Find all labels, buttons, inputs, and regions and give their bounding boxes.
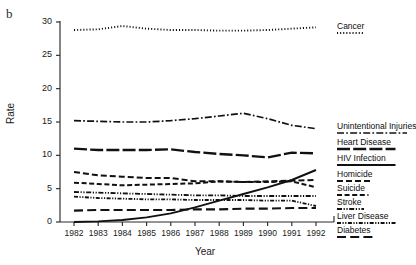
legend-label-heart-disease: Heart Disease	[337, 137, 391, 147]
legend-label-cancer: Cancer	[337, 21, 364, 31]
y-axis-label: Rate	[5, 91, 16, 137]
series-line-liver-disease	[74, 197, 316, 206]
x-tick-1992: 1992	[301, 228, 331, 238]
y-tick-0: 0	[30, 216, 52, 226]
axes	[56, 21, 334, 226]
series-line-heart-disease	[74, 149, 316, 158]
legend-label-diabetes: Diabetes	[337, 225, 371, 235]
legend-label-suicide: Suicide	[337, 183, 365, 193]
panel-label: b	[6, 6, 13, 22]
y-tick-10: 10	[30, 149, 52, 159]
x-axis-label: Year	[60, 246, 350, 257]
series-lines	[74, 26, 316, 222]
y-tick-20: 20	[30, 83, 52, 93]
y-tick-15: 15	[30, 116, 52, 126]
legend-label-hiv-infection: HIV Infection	[337, 153, 386, 163]
y-tick-30: 30	[30, 16, 52, 26]
series-line-stroke	[74, 192, 316, 196]
legend-label-liver-disease: Liver Disease	[337, 211, 389, 221]
legend-label-unintentional-injuries: Unintentional Injuries	[337, 121, 416, 131]
legend-label-stroke: Stroke	[337, 197, 362, 207]
series-line-unintentional-injuries	[74, 113, 316, 128]
series-line-cancer	[74, 26, 316, 31]
y-tick-5: 5	[30, 183, 52, 193]
legend-label-homicide: Homicide	[337, 169, 372, 179]
y-tick-25: 25	[30, 49, 52, 59]
series-line-homicide	[74, 172, 316, 182]
series-line-diabetes	[74, 208, 316, 211]
